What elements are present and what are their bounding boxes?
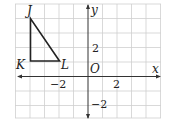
coordinate-plane: J K L y x O −2 2 2 −2 <box>0 0 169 125</box>
origin-label: O <box>90 62 100 76</box>
x-tick-label-neg2: −2 <box>50 78 66 91</box>
x-axis-label: x <box>152 62 159 76</box>
y-axis-arrow-up-icon <box>86 4 90 9</box>
y-tick-label-neg2: −2 <box>91 98 107 111</box>
vertex-label-l: L <box>60 58 69 72</box>
vertex-label-j: J <box>24 4 33 18</box>
y-tick-label-pos2: 2 <box>92 42 99 55</box>
triangle-jkl <box>31 19 60 62</box>
x-tick-label-pos2: 2 <box>113 78 120 91</box>
x-axis-arrow-left-icon <box>17 75 22 79</box>
vertex-label-k: K <box>15 58 26 72</box>
y-axis-label: y <box>90 3 98 17</box>
